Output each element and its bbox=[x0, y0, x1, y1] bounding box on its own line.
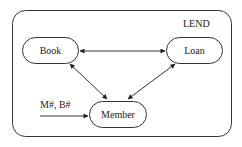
node-book: Book bbox=[23, 38, 79, 64]
input-label: M#, B# bbox=[40, 99, 71, 110]
container-label: LEND bbox=[183, 18, 210, 29]
node-loan: Loan bbox=[167, 38, 223, 64]
lend-diagram: LEND M#, B# Book Loan Member bbox=[0, 0, 242, 147]
node-member: Member bbox=[90, 102, 147, 128]
node-loan-label: Loan bbox=[184, 45, 205, 56]
edge-loan-member bbox=[128, 64, 175, 99]
node-member-label: Member bbox=[101, 109, 136, 120]
node-book-label: Book bbox=[40, 45, 62, 56]
edge-book-member bbox=[70, 64, 107, 99]
